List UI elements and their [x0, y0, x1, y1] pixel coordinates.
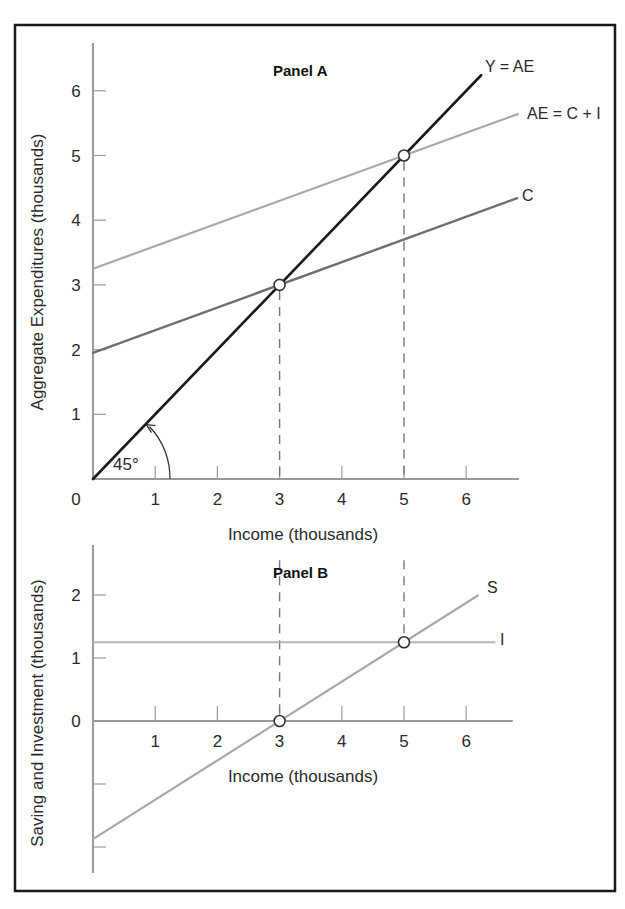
y-tick-label: 2 [71, 586, 80, 605]
y-tick-label: 4 [71, 211, 80, 230]
line-s [93, 595, 479, 839]
panel-a-y-axis-title: Aggregate Expenditures (thousands) [28, 134, 47, 411]
x-tick-label: 3 [275, 490, 284, 509]
x-tick-label: 2 [213, 732, 222, 751]
label-ae-equals-c-plus-i: AE = C + I [527, 105, 601, 122]
label-y-equals-ae: Y = AE [485, 58, 534, 75]
angle-arc [149, 427, 170, 479]
label-s: S [487, 579, 498, 596]
panel-a-x-axis-title: Income (thousands) [228, 525, 378, 544]
x-tick-label: 5 [399, 490, 408, 509]
equilibrium-point [399, 150, 410, 161]
line-c [93, 198, 517, 353]
x-tick-label: 6 [461, 732, 470, 751]
chart-figure: 123456123456 Panel A Aggregate Expenditu… [0, 0, 625, 909]
angle-45-arc [146, 425, 170, 479]
equilibrium-point [274, 716, 285, 727]
panel-b-lines [93, 595, 495, 839]
panel-a-axes: 123456123456 [71, 43, 519, 509]
panel-b-y-axis-title: Saving and Investment (thousands) [28, 579, 47, 846]
panel-a-dashed-guides [280, 162, 404, 480]
x-tick-label: 4 [337, 732, 346, 751]
y-tick-label: 6 [71, 82, 80, 101]
y-tick-label: 1 [71, 405, 80, 424]
line-ae-c-i [93, 114, 518, 269]
x-tick-label: 5 [399, 732, 408, 751]
panel-a: 123456123456 Panel A Aggregate Expenditu… [28, 43, 601, 544]
y-tick-label: 2 [71, 341, 80, 360]
equilibrium-point [274, 279, 285, 290]
label-c: C [522, 187, 534, 204]
origin-label: 0 [71, 490, 80, 509]
panel-b-title: Panel B [273, 564, 328, 581]
panel-b-axes: 012123456 [71, 545, 513, 873]
panel-b-dashed-guides [280, 560, 404, 715]
angle-label: 45° [113, 455, 139, 474]
x-tick-label: 4 [337, 490, 346, 509]
panel-a-lines [93, 75, 518, 479]
x-tick-label: 6 [461, 490, 470, 509]
x-tick-label: 1 [150, 490, 159, 509]
y-tick-label: 0 [71, 712, 80, 731]
y-tick-label: 1 [71, 649, 80, 668]
panel-a-title: Panel A [273, 62, 328, 79]
x-tick-label: 2 [213, 490, 222, 509]
panel-b: 012123456 Panel B Saving and Investment … [28, 545, 513, 873]
equilibrium-point [399, 637, 410, 648]
label-i: I [500, 631, 504, 648]
panel-b-x-axis-title: Income (thousands) [228, 767, 378, 786]
y-tick-label: 3 [71, 276, 80, 295]
x-tick-label: 1 [150, 732, 159, 751]
x-tick-label: 3 [275, 732, 284, 751]
line-y-ae [93, 75, 481, 479]
y-tick-label: 5 [71, 147, 80, 166]
